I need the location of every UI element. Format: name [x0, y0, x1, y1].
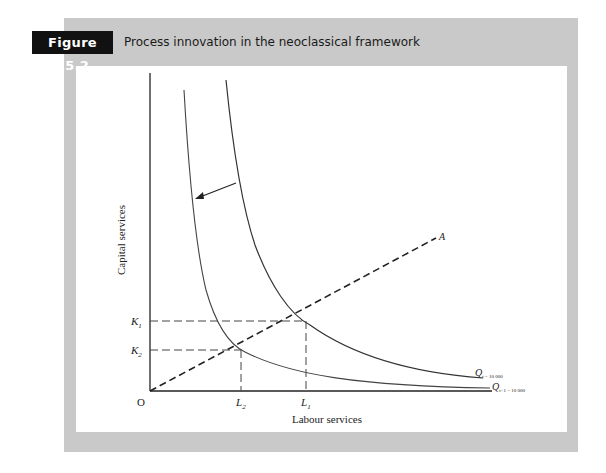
k2-label: K2: [130, 344, 142, 359]
ray-label: A: [438, 231, 446, 242]
isoquant-q-t: [226, 80, 483, 378]
shift-arrow: [200, 183, 236, 197]
isoquant-q-t1-label: Qt+1 = 10 000: [492, 381, 526, 393]
y-axis-label: Capital services: [115, 205, 127, 275]
arrow-head-icon: [195, 192, 204, 199]
k1-label: K1: [130, 315, 142, 330]
l2-label: L2: [235, 396, 246, 411]
x-axis-label: Labour services: [292, 413, 362, 425]
expansion-ray: [150, 238, 436, 391]
origin-label: O: [137, 396, 145, 408]
isoquant-q-t-label: Qt = 10 000: [475, 367, 503, 379]
l1-label: L1: [300, 396, 311, 411]
isoquant-diagram: Capital services Labour services O K1 K2…: [0, 0, 606, 473]
